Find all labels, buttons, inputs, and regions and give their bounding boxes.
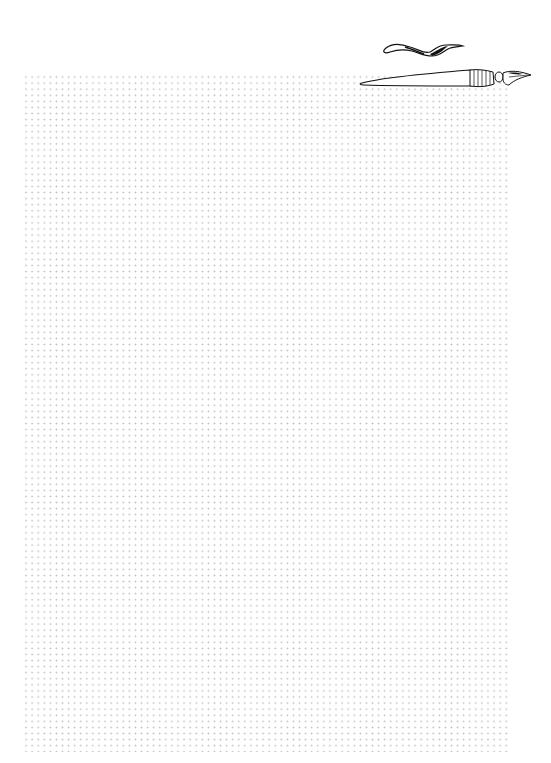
fountain-pen-icon	[0, 0, 551, 763]
